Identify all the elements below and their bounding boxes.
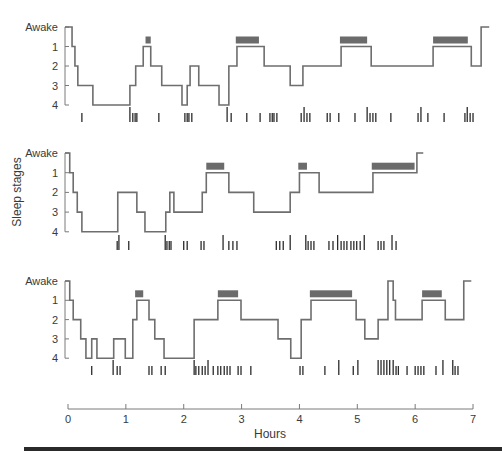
rem-bar (218, 290, 238, 297)
y-tick-label: Awake (25, 21, 58, 33)
hypnogram-line (65, 281, 471, 358)
y-axis-label: Sleep stages (10, 157, 24, 226)
x-tick-label: 4 (296, 413, 302, 425)
rem-bar (135, 290, 143, 297)
x-axis-label: Hours (254, 427, 286, 441)
hypnogram-panel-3: Awake1234 (25, 275, 471, 375)
hypnogram-line (65, 153, 423, 232)
y-tick-label: 3 (52, 333, 58, 345)
x-tick-label: 1 (123, 413, 129, 425)
rem-bar (433, 37, 468, 44)
x-tick-label: 6 (412, 413, 418, 425)
x-axis: 01234567 (65, 404, 476, 425)
hypnogram-line (65, 27, 489, 105)
rem-bar (310, 290, 352, 297)
panels-layer: Awake1234Awake1234Awake1234 (25, 21, 489, 375)
bottom-border-band (24, 447, 502, 451)
y-tick-label: 1 (52, 41, 58, 53)
rem-bar (298, 163, 307, 170)
rem-bar (422, 290, 442, 297)
x-tick-label: 0 (65, 413, 71, 425)
x-tick-label: 7 (470, 413, 476, 425)
rem-bar (372, 163, 415, 170)
y-axis: Awake1234 (25, 275, 69, 364)
hypnogram-chart: Awake1234Awake1234Awake1234 01234567 Sle… (0, 0, 502, 451)
rem-bar (236, 37, 259, 44)
y-tick-label: 4 (52, 226, 58, 238)
hypnogram-panel-2: Awake1234 (25, 147, 423, 250)
y-tick-label: 2 (52, 186, 58, 198)
y-tick-label: 1 (52, 294, 58, 306)
x-tick-label: 5 (354, 413, 360, 425)
y-tick-label: 1 (52, 167, 58, 179)
y-tick-label: 2 (52, 60, 58, 72)
rem-bar (206, 163, 224, 170)
rem-bar (146, 37, 151, 44)
y-tick-label: 3 (52, 80, 58, 92)
y-tick-label: 4 (52, 99, 58, 111)
x-tick-label: 2 (181, 413, 187, 425)
y-tick-label: 3 (52, 206, 58, 218)
y-tick-label: 2 (52, 314, 58, 326)
y-tick-label: 4 (52, 352, 58, 364)
y-axis: Awake1234 (25, 21, 69, 111)
y-tick-label: Awake (25, 147, 58, 159)
x-tick-label: 3 (239, 413, 245, 425)
y-tick-label: Awake (25, 275, 58, 287)
rem-bar (340, 37, 367, 44)
y-axis: Awake1234 (25, 147, 69, 238)
hypnogram-panel-1: Awake1234 (25, 21, 489, 122)
hypnogram-figure: Awake1234Awake1234Awake1234 01234567 Sle… (0, 0, 502, 451)
